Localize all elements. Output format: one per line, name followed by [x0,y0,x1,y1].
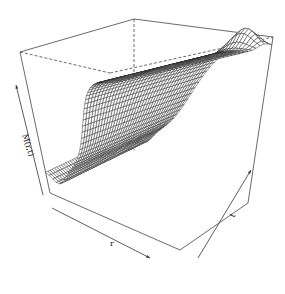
z-axis-arrow-head [16,85,19,89]
y-axis-label: t [228,211,238,219]
box-edge-top-front-left [20,52,110,73]
surface-mesh [46,28,272,184]
x-axis-label: r [110,239,114,248]
box-edge-bottom-front-right [180,203,248,250]
box-edge-top-back-left [20,19,134,52]
box-edge-bottom-front-left [50,193,180,250]
x-axis-arrow-head [146,255,150,258]
persp-plot: M(r,t) r t [0,0,285,294]
y-axis-arrow [198,170,251,258]
box-edge-left-vertical [20,52,50,193]
z-axis-label: M(r,t) [20,133,36,158]
box-edge-right-vertical [248,37,273,203]
y-axis-arrow-head [248,170,251,174]
chart-container: M(r,t) r t [0,0,285,294]
